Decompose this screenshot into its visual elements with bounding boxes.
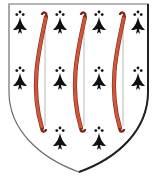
shield-field: [9, 4, 148, 172]
shield-canvas: [0, 0, 157, 178]
heraldic-shield: [0, 0, 157, 178]
